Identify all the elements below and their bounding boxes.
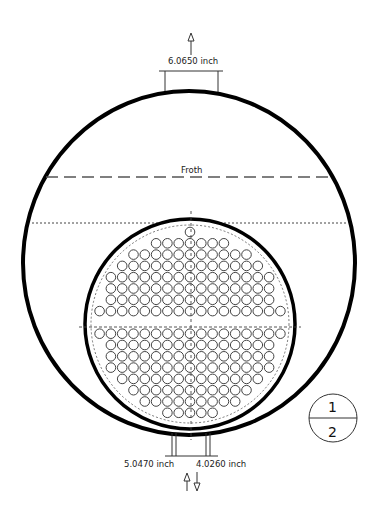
pass-indicator: 1 2: [309, 394, 357, 442]
pass-top: 1: [328, 399, 337, 415]
bundle-outline: [85, 219, 295, 429]
bottom-nozzle-label-1: 5.0470 inch: [124, 459, 174, 469]
pass-bottom: 2: [328, 424, 337, 440]
top-nozzle: 6.0650 inch: [159, 33, 223, 92]
froth-level: Froth: [46, 165, 333, 177]
arrow-up-icon: [184, 473, 190, 481]
top-nozzle-label: 6.0650 inch: [168, 56, 218, 66]
arrow-down-icon: [194, 483, 200, 491]
froth-label: Froth: [181, 165, 203, 175]
bottom-nozzles: 5.0470 inch 4.0260 inch: [124, 433, 246, 491]
bottom-nozzle-label-2: 4.0260 inch: [196, 459, 246, 469]
tube-bundle: [79, 211, 301, 440]
exchanger-diagram: 6.0650 inch Froth 5.0470 inch 4.0260 inc…: [0, 0, 383, 518]
arrow-up-icon: [188, 33, 194, 41]
